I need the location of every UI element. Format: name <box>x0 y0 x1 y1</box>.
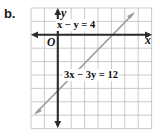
x-axis-label: x <box>145 34 151 46</box>
figure-container: b. <box>0 0 160 140</box>
origin-label: O <box>46 36 56 48</box>
y-axis-label: y <box>61 7 66 19</box>
equation-label-1: x − y = 4 <box>56 19 96 31</box>
part-label: b. <box>4 6 15 21</box>
equation-label-2: 3x − 3y = 12 <box>63 69 119 81</box>
